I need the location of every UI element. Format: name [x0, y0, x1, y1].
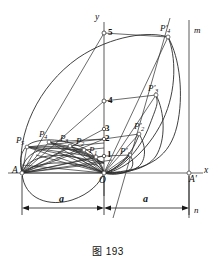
point-label-p4-prime: P'4 — [160, 24, 170, 34]
point-label-p3: P3 — [60, 134, 68, 144]
vertex-a-prime-label: A' — [189, 175, 197, 185]
y-tick-2: 2 — [105, 134, 110, 143]
point-p3p-sub: 3 — [155, 87, 158, 94]
line-m-label: m — [194, 26, 201, 35]
y-axis-label: y — [95, 13, 99, 23]
figure-193: y x O A A' m n 5 4 3 2 1 P5 P4 P3 P2 P1 … — [0, 0, 216, 265]
line-n-label: n — [194, 206, 199, 215]
point-p4-sub: 4 — [44, 133, 47, 140]
y-tick-4: 4 — [108, 96, 113, 105]
x-axis-label: x — [204, 166, 208, 176]
point-p2p-sub: 2 — [141, 125, 144, 132]
point-p3-sub: 3 — [65, 137, 68, 144]
right-loop-curves — [104, 37, 180, 174]
y-tick-1: 1 — [107, 150, 112, 159]
point-p1p-sub: 1 — [127, 150, 130, 157]
point-label-p1: P1 — [89, 146, 97, 156]
rays-from-O — [104, 37, 168, 173]
point-label-p4: P4 — [39, 130, 47, 140]
point-label-p2-prime: P'2 — [134, 122, 144, 132]
oblique-ray — [113, 18, 170, 218]
figure-caption: 图 193 — [0, 243, 216, 258]
vertex-a-label: A — [12, 166, 18, 176]
point-p2-sub: 2 — [81, 140, 84, 147]
point-p5-sub: 5 — [21, 139, 24, 146]
point-label-p5: P5 — [16, 136, 24, 146]
y-tick-5: 5 — [108, 28, 113, 37]
y-tick-3: 3 — [105, 124, 110, 133]
dimension-arrow-left — [22, 206, 104, 211]
point-label-p2: P2 — [76, 137, 84, 147]
origin-label: O — [99, 176, 106, 186]
point-label-p3-prime: P'3 — [148, 84, 158, 94]
dimension-label-left: a — [59, 194, 64, 204]
point-p1-sub: 1 — [94, 149, 97, 156]
point-p4p-sub: 4 — [167, 27, 170, 34]
point-label-p1-prime: P'1 — [120, 147, 130, 157]
dimension-label-right: a — [143, 194, 148, 204]
